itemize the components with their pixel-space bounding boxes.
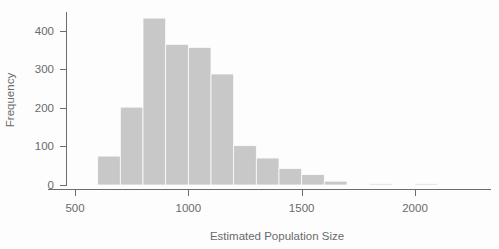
x-tick-group: 500100015002000 [65, 190, 427, 215]
y-tick-group: 0100200300400 [35, 25, 67, 191]
histogram-bar [302, 175, 325, 185]
histogram-bar [279, 168, 302, 185]
histogram-bar [98, 156, 121, 185]
y-axis-title: Frequency [4, 73, 16, 128]
y-tick-label: 300 [35, 63, 54, 75]
y-tick-label: 0 [48, 179, 54, 191]
x-axis-title: Estimated Population Size [210, 230, 344, 242]
x-tick-label: 2000 [402, 202, 428, 214]
y-tick-label: 100 [35, 140, 54, 152]
x-tick-label: 1500 [289, 202, 315, 214]
histogram-plot: 0100200300400 500100015002000 Estimated … [0, 0, 499, 249]
histogram-bar [143, 18, 166, 185]
histogram-figure: 0100200300400 500100015002000 Estimated … [0, 0, 499, 249]
histogram-bar [324, 181, 347, 185]
histogram-bar [211, 74, 234, 185]
histogram-bar [120, 107, 143, 185]
histogram-bar [234, 146, 257, 185]
histogram-bars [98, 18, 438, 185]
histogram-bar [166, 44, 189, 185]
y-tick-label: 400 [35, 25, 54, 37]
y-tick-label: 200 [35, 102, 54, 114]
x-tick-label: 1000 [176, 202, 202, 214]
histogram-bar [415, 184, 438, 185]
histogram-bar [188, 47, 211, 185]
histogram-bar [256, 158, 279, 185]
histogram-bar [370, 184, 393, 185]
x-tick-label: 500 [65, 202, 84, 214]
